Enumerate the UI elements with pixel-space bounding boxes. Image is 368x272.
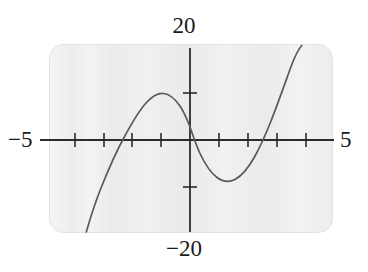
y-axis-min-label: −20 <box>0 237 368 260</box>
x-axis-min-label: −5 <box>8 128 32 151</box>
plot-canvas <box>0 0 368 272</box>
x-axis-max-label: 5 <box>340 128 352 151</box>
y-axis-max-label: 20 <box>0 14 368 37</box>
figure-root: 20 −20 −5 5 <box>0 0 368 272</box>
function-curve <box>86 46 301 233</box>
